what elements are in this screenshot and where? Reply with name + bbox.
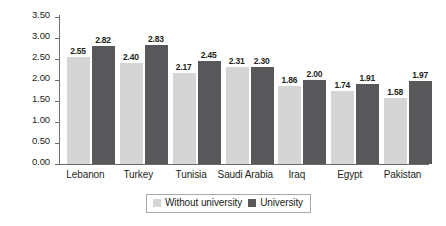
- y-axis-tick-label: 0.50: [32, 136, 50, 146]
- bar-value-label: 2.40: [114, 53, 148, 62]
- x-axis-line: [59, 164, 429, 165]
- y-axis-tick-label: 3.50: [32, 10, 50, 20]
- x-axis-label-pakistan: Pakistan: [376, 168, 429, 181]
- x-axis-label-egypt: Egypt: [323, 168, 376, 181]
- y-axis-tick-label: 3.00: [32, 31, 50, 41]
- x-axis-label-iraq: Iraq: [270, 168, 323, 181]
- y-axis-tick-label: 0.00: [32, 157, 50, 167]
- x-axis-label-lebanon: Lebanon: [59, 168, 112, 181]
- bar-group: 1.581.97: [376, 17, 429, 164]
- plot-area: 2.552.822.402.832.172.452.312.301.862.00…: [59, 17, 429, 164]
- bar-chart: 3.503.002.502.001.501.000.500.00 2.552.8…: [0, 0, 446, 226]
- bar-without-university[interactable]: [67, 57, 90, 164]
- legend-swatch-icon: [153, 199, 161, 207]
- y-axis-tick-label: 1.00: [32, 115, 50, 125]
- x-axis-label-tunisia: Tunisia: [165, 168, 218, 181]
- y-axis-tick-label: 2.00: [32, 73, 50, 83]
- bar-value-label: 1.97: [403, 71, 437, 80]
- x-axis-label-saudi-arabia: Saudi Arabia: [218, 168, 271, 181]
- bar-without-university[interactable]: [173, 73, 196, 164]
- chart-legend: Without universityUniversity: [146, 194, 311, 213]
- bar-group: 2.402.83: [112, 17, 165, 164]
- legend-item[interactable]: University: [248, 197, 303, 209]
- bar-without-university[interactable]: [278, 86, 301, 164]
- y-axis-tick-label: 2.50: [32, 52, 50, 62]
- legend-swatch-icon: [248, 199, 256, 207]
- legend-label: Without university: [165, 197, 242, 209]
- bar-group: 2.172.45: [165, 17, 218, 164]
- bar-value-label: 1.58: [378, 88, 412, 97]
- x-axis-category-labels: LebanonTurkeyTunisiaSaudi ArabiaIraqEgyp…: [59, 168, 429, 184]
- bar-without-university[interactable]: [226, 67, 249, 164]
- bar-without-university[interactable]: [120, 63, 143, 164]
- bar-group: 2.312.30: [218, 17, 271, 164]
- bar-value-label: 2.55: [61, 47, 95, 56]
- bar-group: 1.862.00: [270, 17, 323, 164]
- y-axis-tick-mark: [55, 164, 59, 165]
- legend-label: University: [260, 197, 303, 209]
- bar-group: 2.552.82: [59, 17, 112, 164]
- bar-value-label: 2.17: [167, 63, 201, 72]
- bar-group: 1.741.91: [323, 17, 376, 164]
- x-axis-label-turkey: Turkey: [112, 168, 165, 181]
- bar-university[interactable]: [409, 81, 432, 164]
- bar-without-university[interactable]: [331, 91, 354, 164]
- legend-item[interactable]: Without university: [153, 197, 242, 209]
- y-axis-tick-label: 1.50: [32, 94, 50, 104]
- bar-without-university[interactable]: [384, 98, 407, 164]
